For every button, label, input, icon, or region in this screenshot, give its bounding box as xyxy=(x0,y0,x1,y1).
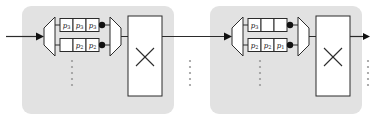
row-bottom-node xyxy=(99,42,105,48)
row-top-node xyxy=(287,22,293,28)
stage-left: p3 p3 p3 p2 xyxy=(0,0,162,96)
x-crossed-block-right xyxy=(316,16,350,96)
diagram-vectors: p3 p3 p3 p2 xyxy=(0,0,375,121)
input-arrow xyxy=(6,33,44,41)
ellipsis-after-output xyxy=(367,60,369,86)
demux-left xyxy=(44,17,55,56)
mux-left xyxy=(110,17,121,56)
output-arrow xyxy=(350,33,370,40)
ellipsis-between-stages xyxy=(189,60,191,86)
ellipsis-left-rows xyxy=(71,60,73,86)
mux-right xyxy=(298,17,309,56)
row-bottom-cells: p2 p2 p1 xyxy=(248,39,287,52)
row-top-node xyxy=(99,22,105,28)
diagram-canvas: p3 p3 p3 p2 xyxy=(0,0,375,121)
row-bottom-node xyxy=(287,42,293,48)
x-crossed-block-left xyxy=(128,16,162,96)
demux-right xyxy=(232,17,243,56)
row-top-cells: p3 p3 p3 xyxy=(60,19,99,32)
interstage-arrow xyxy=(162,33,232,41)
ellipsis-right-rows xyxy=(259,60,261,86)
